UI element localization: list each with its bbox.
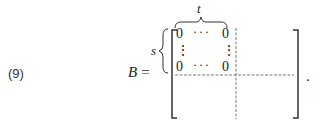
block-vdots-right: ⋮ <box>222 44 236 58</box>
left-brace-icon <box>159 29 168 73</box>
block-vdots-left: ⋮ <box>176 44 190 58</box>
block-hdots-top: ··· <box>193 25 211 40</box>
matrix-brackets-and-partitions <box>0 0 320 126</box>
right-bracket-icon <box>293 30 298 118</box>
block-entry-bottom-right: 0 <box>222 60 229 74</box>
equation-period: . <box>306 68 310 85</box>
block-entry-bottom-left: 0 <box>176 60 183 74</box>
block-entry-top-right: 0 <box>222 27 229 41</box>
block-entry-top-left: 0 <box>176 27 183 41</box>
block-hdots-bottom: ··· <box>193 58 211 73</box>
